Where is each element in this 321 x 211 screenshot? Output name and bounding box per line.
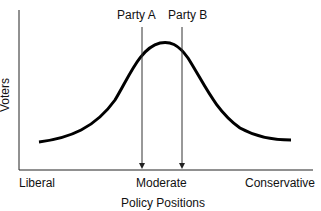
x-tick-liberal: Liberal (19, 176, 55, 190)
party-b-label: Party B (168, 8, 207, 22)
y-axis-label: Voters (0, 78, 12, 112)
x-tick-moderate: Moderate (136, 176, 187, 190)
x-tick-conservative: Conservative (245, 176, 315, 190)
party-a-label: Party A (117, 8, 156, 22)
party-b-arrowhead (179, 163, 185, 169)
party-a-arrowhead (139, 163, 145, 169)
x-axis-label: Policy Positions (121, 196, 205, 210)
voter-distribution-curve (39, 42, 291, 142)
